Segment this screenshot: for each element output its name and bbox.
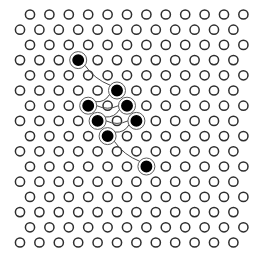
empty-site bbox=[142, 71, 151, 80]
empty-site bbox=[54, 56, 63, 65]
empty-site bbox=[35, 116, 44, 125]
empty-site bbox=[200, 10, 209, 19]
empty-site bbox=[229, 56, 238, 65]
empty-site bbox=[122, 40, 131, 49]
empty-site bbox=[122, 10, 131, 19]
empty-site bbox=[239, 192, 248, 201]
empty-site bbox=[219, 223, 228, 232]
empty-site bbox=[161, 162, 170, 171]
empty-site bbox=[132, 147, 141, 156]
empty-site bbox=[219, 192, 228, 201]
empty-site bbox=[64, 10, 73, 19]
empty-site bbox=[181, 10, 190, 19]
empty-site bbox=[219, 132, 228, 141]
empty-site bbox=[209, 238, 218, 247]
empty-site bbox=[151, 208, 160, 217]
empty-site bbox=[54, 116, 63, 125]
empty-site bbox=[74, 177, 83, 186]
empty-site bbox=[239, 71, 248, 80]
empty-site bbox=[15, 25, 24, 34]
empty-site bbox=[181, 101, 190, 110]
empty-site bbox=[64, 192, 73, 201]
empty-site bbox=[35, 147, 44, 156]
empty-site bbox=[93, 86, 102, 95]
empty-site bbox=[132, 86, 141, 95]
empty-site bbox=[84, 10, 93, 19]
empty-site bbox=[229, 208, 238, 217]
empty-site bbox=[122, 223, 131, 232]
empty-site bbox=[239, 40, 248, 49]
empty-site bbox=[35, 25, 44, 34]
empty-site bbox=[45, 101, 54, 110]
occupied-site bbox=[141, 161, 151, 171]
empty-site bbox=[229, 25, 238, 34]
empty-site bbox=[64, 162, 73, 171]
empty-site bbox=[84, 162, 93, 171]
empty-site bbox=[219, 40, 228, 49]
empty-site bbox=[181, 192, 190, 201]
empty-site bbox=[171, 116, 180, 125]
empty-site bbox=[181, 223, 190, 232]
empty-site bbox=[103, 10, 112, 19]
empty-site bbox=[200, 40, 209, 49]
empty-site bbox=[161, 40, 170, 49]
empty-site bbox=[132, 208, 141, 217]
empty-site bbox=[142, 132, 151, 141]
empty-site bbox=[45, 192, 54, 201]
empty-site bbox=[171, 238, 180, 247]
empty-site bbox=[103, 223, 112, 232]
empty-site bbox=[15, 116, 24, 125]
empty-site bbox=[151, 177, 160, 186]
empty-site bbox=[219, 71, 228, 80]
empty-site bbox=[190, 208, 199, 217]
empty-site bbox=[74, 25, 83, 34]
empty-site bbox=[103, 162, 112, 171]
empty-site bbox=[112, 208, 121, 217]
empty-site bbox=[171, 177, 180, 186]
empty-site bbox=[112, 238, 121, 247]
occupied-site bbox=[92, 116, 102, 126]
empty-site bbox=[161, 71, 170, 80]
empty-site bbox=[122, 192, 131, 201]
empty-site bbox=[190, 86, 199, 95]
walk-path bbox=[70, 52, 155, 175]
empty-site bbox=[103, 192, 112, 201]
empty-site bbox=[25, 192, 34, 201]
empty-site bbox=[25, 162, 34, 171]
empty-site bbox=[200, 223, 209, 232]
empty-site bbox=[181, 71, 190, 80]
empty-site bbox=[239, 10, 248, 19]
empty-site bbox=[142, 192, 151, 201]
occupied-site bbox=[83, 101, 93, 111]
empty-site bbox=[229, 86, 238, 95]
empty-site bbox=[200, 192, 209, 201]
empty-site bbox=[161, 101, 170, 110]
empty-site bbox=[190, 147, 199, 156]
empty-site bbox=[84, 132, 93, 141]
empty-site bbox=[142, 223, 151, 232]
empty-site bbox=[161, 192, 170, 201]
empty-site bbox=[54, 86, 63, 95]
empty-site bbox=[45, 71, 54, 80]
empty-site bbox=[151, 56, 160, 65]
empty-site bbox=[74, 86, 83, 95]
empty-site bbox=[132, 56, 141, 65]
empty-site bbox=[93, 147, 102, 156]
empty-site bbox=[74, 208, 83, 217]
empty-site bbox=[15, 86, 24, 95]
empty-site bbox=[151, 86, 160, 95]
empty-site bbox=[229, 238, 238, 247]
empty-site bbox=[122, 71, 131, 80]
empty-site bbox=[25, 71, 34, 80]
empty-site bbox=[25, 101, 34, 110]
empty-site bbox=[93, 177, 102, 186]
empty-site bbox=[103, 40, 112, 49]
empty-site bbox=[35, 56, 44, 65]
empty-site bbox=[103, 71, 112, 80]
empty-site bbox=[25, 40, 34, 49]
empty-site bbox=[93, 238, 102, 247]
empty-site bbox=[54, 25, 63, 34]
empty-site bbox=[200, 101, 209, 110]
empty-site bbox=[181, 40, 190, 49]
empty-site bbox=[45, 162, 54, 171]
